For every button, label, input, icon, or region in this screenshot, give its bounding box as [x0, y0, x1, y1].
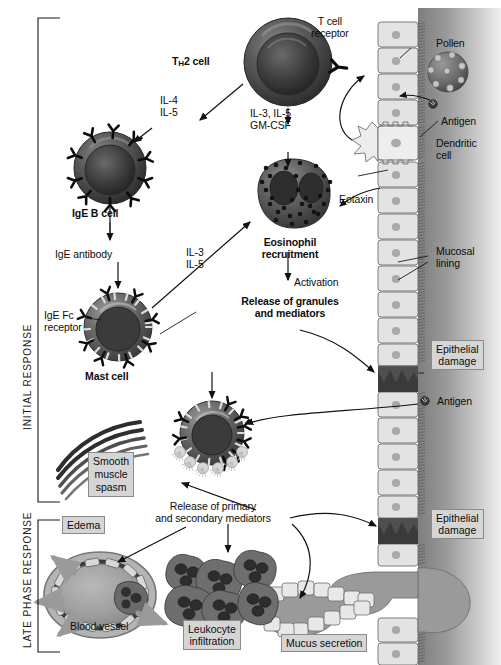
il3-il5-gmcsf-label: IL-3, IL-5 GM-CSF: [250, 108, 291, 131]
antigen-upper-label: Antigen: [441, 116, 476, 128]
smooth-muscle-spasm-box: Smooth muscle spasm: [88, 452, 134, 497]
mast-cell-label: Mast cell: [85, 371, 128, 383]
mast-cell: [78, 287, 159, 368]
antigen-particle-mid: [421, 397, 429, 405]
degranulating-mast-cell: [172, 397, 251, 477]
epithelial-damage-box-lower: Epithelial damage: [431, 509, 484, 539]
antigen-mid-label: Antigen: [437, 396, 472, 408]
t-cell-receptor-label: T cell receptor: [311, 16, 349, 39]
eotaxin-label: Eotaxin: [339, 194, 373, 206]
epithelial-damage-region-lower: [378, 518, 418, 544]
il3-il5-label: IL-3 IL-5: [186, 247, 204, 270]
pollen-label: Pollen: [436, 38, 465, 50]
ige-fc-receptor-label: IgE Fc receptor: [44, 310, 82, 333]
ige-antibody-label: IgE antibody: [55, 249, 112, 261]
ige-b-cell-label: IgE B cell: [72, 208, 118, 220]
eosinophil-recruitment-label: Eosinophil recruitment: [244, 237, 336, 260]
antigen-particle-upper: [429, 100, 437, 108]
late-phase-response-label: LATE PHASE RESPONSE: [22, 512, 33, 648]
epithelial-damage-region-upper: [378, 366, 418, 392]
il4-il5-label: IL-4 IL-5: [160, 95, 178, 118]
dendritic-cell: [352, 122, 418, 164]
mucus-gland: [256, 568, 470, 637]
eosinophil: [258, 159, 332, 228]
initial-response-label: INITIAL RESPONSE: [22, 324, 33, 430]
mucus-secretion-box: Mucus secretion: [281, 634, 367, 652]
edema-box: Edema: [62, 516, 105, 534]
leukocyte-cluster: [165, 550, 278, 628]
mucosal-epithelium: [378, 22, 418, 665]
th2-cell-label: TH2 cell: [172, 56, 210, 70]
release-of-mediators-label: Release of primary and secondary mediato…: [143, 501, 283, 524]
figure-canvas: INITIAL RESPONSE LATE PHASE RESPONSE TH2…: [0, 0, 501, 665]
pollen-grain: [428, 52, 468, 92]
activation-label: Activation: [294, 277, 339, 289]
mucosal-lining-label: Mucosal lining: [436, 246, 474, 269]
epithelial-damage-box-upper: Epithelial damage: [431, 340, 484, 370]
leukocyte-infiltration-box: Leukocyte infiltration: [183, 620, 241, 650]
dendritic-cell-label: Dendritic cell: [436, 138, 477, 161]
release-of-granules-label: Release of granules and mediators: [223, 296, 357, 319]
blood-vessel-label: Blood vessel: [70, 621, 128, 633]
